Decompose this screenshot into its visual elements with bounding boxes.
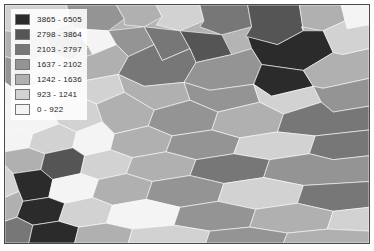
legend-item: 923 - 1241	[15, 87, 82, 102]
legend-label-7: 0 - 922	[37, 104, 63, 115]
legend-swatch-5	[15, 74, 30, 85]
legend-item: 1242 - 1636	[15, 72, 82, 87]
legend-label-3: 2103 - 2797	[37, 44, 82, 55]
legend-label-6: 923 - 1241	[37, 89, 77, 100]
legend-label-1: 3865 - 6505	[37, 14, 82, 25]
legend-swatch-3	[15, 44, 30, 55]
legend-item: 2798 - 3864	[15, 27, 82, 42]
map-legend: 3865 - 6505 2798 - 3864 2103 - 2797 1637…	[11, 9, 87, 120]
legend-item: 0 - 922	[15, 102, 82, 117]
map-region[interactable]	[200, 5, 252, 35]
legend-item: 1637 - 2102	[15, 57, 82, 72]
map-page: 3865 - 6505 2798 - 3864 2103 - 2797 1637…	[0, 0, 374, 251]
legend-item: 3865 - 6505	[15, 12, 82, 27]
legend-swatch-4	[15, 59, 30, 70]
legend-swatch-6	[15, 89, 30, 100]
legend-swatch-7	[15, 104, 30, 115]
map-region[interactable]	[156, 5, 204, 31]
map-region[interactable]	[116, 5, 162, 27]
legend-swatch-1	[15, 14, 30, 25]
legend-item: 2103 - 2797	[15, 42, 82, 57]
legend-label-2: 2798 - 3864	[37, 29, 82, 40]
legend-swatch-2	[15, 29, 30, 40]
legend-label-5: 1242 - 1636	[37, 74, 82, 85]
legend-label-4: 1637 - 2102	[37, 59, 82, 70]
